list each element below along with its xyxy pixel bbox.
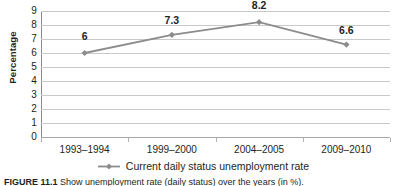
y-axis-tick-label: 8 xyxy=(17,20,37,30)
y-axis-tick-label: 4 xyxy=(17,76,37,86)
data-point-label: 6.6 xyxy=(326,25,366,36)
x-axis-tickmarks xyxy=(41,138,390,143)
y-axis-tick-label: 5 xyxy=(17,62,37,72)
caption-number: FIGURE 11.1 xyxy=(4,177,58,186)
x-axis-tick-label: 2004–2005 xyxy=(214,144,304,156)
x-axis-tickmark xyxy=(303,138,304,142)
y-axis-tick-label: 3 xyxy=(17,90,37,100)
y-axis-tick-label: 6 xyxy=(17,48,37,58)
legend-entry-label: Current daily status unemployment rate xyxy=(126,160,309,172)
caption-text: Show unemployment rate (daily status) ov… xyxy=(58,177,304,186)
plot-area: 67.38.26.6 xyxy=(41,11,390,137)
data-point-label: 8.2 xyxy=(239,0,279,11)
y-axis-tick-label: 9 xyxy=(17,6,37,16)
x-axis-tick-label: 2009–2010 xyxy=(301,144,391,156)
figure-caption: FIGURE 11.1 Show unemployment rate (dail… xyxy=(4,177,404,186)
data-point-marker xyxy=(256,19,262,25)
chart-legend: Current daily status unemployment rate xyxy=(0,160,407,172)
y-axis-tick-label: 7 xyxy=(17,34,37,44)
x-axis-tick-labels: 1993–19941999–20002004–20052009–2010 xyxy=(41,144,390,158)
x-axis-tickmark xyxy=(41,138,42,142)
y-axis-tick-label: 0 xyxy=(17,132,37,142)
x-axis-tickmark xyxy=(128,138,129,142)
x-axis-tick-label: 1993–1994 xyxy=(40,144,130,156)
x-axis-tickmark xyxy=(390,138,391,142)
series-line xyxy=(85,22,347,53)
y-axis-tick-label: 2 xyxy=(17,104,37,114)
x-axis-tick-label: 1999–2000 xyxy=(127,144,217,156)
data-point-marker xyxy=(82,50,88,56)
legend-line-marker-icon xyxy=(98,162,120,171)
y-axis-tick-labels: 0123456789 xyxy=(14,11,37,137)
data-point-label: 6 xyxy=(65,31,105,42)
data-point-marker xyxy=(343,42,349,48)
figure-container: Percentage 0123456789 67.38.26.6 1993–19… xyxy=(0,0,407,186)
y-axis-tick-label: 1 xyxy=(17,118,37,128)
data-point-marker xyxy=(169,32,175,38)
data-point-label: 7.3 xyxy=(152,15,192,26)
x-axis-tickmark xyxy=(216,138,217,142)
